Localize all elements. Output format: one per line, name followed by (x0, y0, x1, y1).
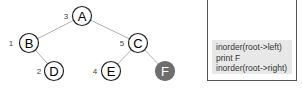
stack-line-inorder-left: inorder(root->left) (216, 42, 288, 53)
binary-tree: A 3 B 1 C 5 D 2 E 4 F (0, 0, 200, 88)
tree-node-d: D 2 (37, 62, 64, 81)
node-label: F (161, 64, 169, 79)
node-label: C (133, 36, 142, 51)
tree-node-e: E 4 (93, 62, 121, 81)
node-label: B (25, 36, 34, 51)
tree-node-f-current: F (156, 62, 175, 81)
visit-order-label: 2 (37, 67, 42, 76)
stack-line-print: print F (216, 53, 288, 64)
visit-order-label: 5 (120, 39, 125, 48)
visit-order-label: 3 (64, 12, 69, 21)
node-label: A (78, 9, 87, 24)
node-label: E (107, 64, 116, 79)
call-stack-box: inorder(root->left) print F inorder(root… (207, 0, 297, 81)
stack-frame: inorder(root->left) print F inorder(root… (212, 40, 292, 74)
visit-order-label: 4 (93, 67, 98, 76)
tree-node-b: B 1 (9, 34, 39, 53)
visit-order-label: 1 (9, 39, 14, 48)
node-label: D (49, 64, 58, 79)
stack-line-inorder-right: inorder(root->right) (216, 63, 288, 74)
